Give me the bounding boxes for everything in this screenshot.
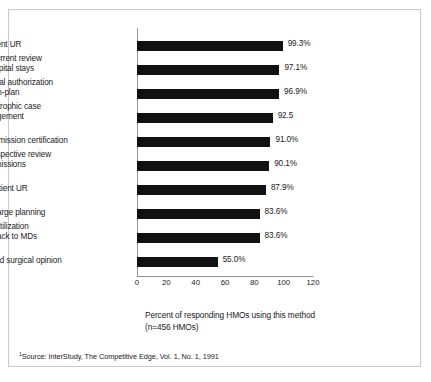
x-axis-tick-label: 40 (191, 277, 200, 289)
bar (137, 185, 266, 195)
bar-category-label: Concurrent review of hospital stays (0, 54, 137, 74)
bar-value-label: 87.9% (271, 182, 294, 193)
bar (137, 89, 279, 99)
x-axis-tick-label: 100 (277, 277, 290, 289)
bar-track: 55.0% (137, 257, 313, 267)
x-axis-tick-label: 20 (162, 277, 171, 289)
bar-category-label: Inpatient UR (0, 40, 137, 50)
source-note-text: Source: InterStudy, The Competitive Edge… (22, 352, 219, 361)
x-axis-caption: Percent of responding HMOs using this me… (145, 310, 405, 333)
bar (137, 233, 260, 243)
bar-value-label: 97.1% (284, 62, 307, 73)
bar-value-label: 83.6% (265, 230, 288, 241)
figure-frame: Inpatient UR99.3%Concurrent review of ho… (8, 9, 421, 367)
bar-category-label: Retrospective review of admissions (0, 150, 137, 170)
bar (137, 209, 260, 219)
chart-plot-area: Inpatient UR99.3%Concurrent review of ho… (9, 10, 422, 296)
bar (137, 41, 283, 51)
bar-value-label: 92.5 (278, 110, 294, 121)
bar-value-label: 91.0% (275, 134, 298, 145)
bar (137, 113, 273, 123)
bar-value-label: 96.9% (284, 86, 307, 97)
bar-track: 83.6% (137, 233, 313, 243)
bar-row: Catastrophic case management92.5 (9, 102, 422, 126)
bar (137, 65, 279, 75)
bar-category-label: Cost/utilization feedback to MDs (0, 222, 137, 242)
bar-row: Discharge planning83.6% (9, 198, 422, 222)
bar-track: 83.6% (137, 209, 313, 219)
x-axis-tick-label: 0 (135, 277, 139, 289)
bar-row: Referral authorization for non-plan96.9% (9, 78, 422, 102)
bar-value-label: 83.6% (265, 206, 288, 217)
bar (137, 257, 218, 267)
bar (137, 161, 269, 171)
source-note: 1Source: InterStudy, The Competitive Edg… (19, 349, 219, 362)
bar-category-label: Outpatient UR (0, 184, 137, 194)
bar-category-label: Catastrophic case management (0, 102, 137, 122)
bar-track: 91.0% (137, 137, 313, 147)
bar-value-label: 55.0% (223, 254, 246, 265)
x-axis-tick-label: 80 (250, 277, 259, 289)
bar-row: Concurrent review of hospital stays97.1% (9, 54, 422, 78)
bar-category-label: Second surgical opinion (0, 256, 137, 266)
x-axis-ticks: 020406080100120 (137, 277, 313, 291)
bar-track: 99.3% (137, 41, 313, 51)
x-axis-tick-label: 60 (221, 277, 230, 289)
bar-category-label: Preadmission certification (0, 136, 137, 146)
bar-track: 90.1% (137, 161, 313, 171)
bar-value-label: 90.1% (274, 158, 297, 169)
bar-row: Retrospective review of admissions90.1% (9, 150, 422, 174)
bar-row: Preadmission certification91.0% (9, 126, 422, 150)
bar-track: 87.9% (137, 185, 313, 195)
bar-category-label: Discharge planning (0, 208, 137, 218)
bar-row: Inpatient UR99.3% (9, 30, 422, 54)
bar-value-label: 99.3% (288, 38, 311, 49)
bar-row: Outpatient UR87.9% (9, 174, 422, 198)
bar-row: Second surgical opinion55.0% (9, 246, 422, 270)
bar (137, 137, 270, 147)
bar-track: 96.9% (137, 89, 313, 99)
x-axis-tick-label: 120 (306, 277, 319, 289)
bar-row: Cost/utilization feedback to MDs83.6% (9, 222, 422, 246)
bar-track: 97.1% (137, 65, 313, 75)
bar-track: 92.5 (137, 113, 313, 123)
bar-category-label: Referral authorization for non-plan (0, 78, 137, 98)
bar-rows: Inpatient UR99.3%Concurrent review of ho… (9, 30, 422, 270)
